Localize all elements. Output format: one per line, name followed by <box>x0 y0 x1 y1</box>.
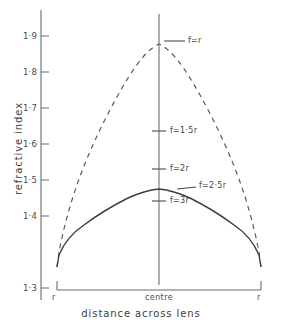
x-tick-label-left-r: r <box>52 293 56 302</box>
x-axis-title: distance across lens <box>0 308 282 319</box>
y-tick-label-1-3: 1·3 <box>13 283 37 293</box>
chart-figure: 1·9 1·8 1·7 1·6 1·5 1·4 1·3 f=r f=1·5r f… <box>0 0 282 331</box>
y-tick-label-1-9: 1·9 <box>13 31 37 41</box>
annotation-label-f-2r: f=2r <box>170 164 189 173</box>
annotation-label-f-1-5r: f=1·5r <box>170 126 197 135</box>
x-tick-label-right-r: r <box>257 293 261 302</box>
y-axis-ticks <box>41 36 49 288</box>
annotation-label-f-3r: f=3r <box>170 196 189 205</box>
y-axis-title: refractive index <box>13 84 24 214</box>
y-tick-label-1-8: 1·8 <box>13 67 37 77</box>
x-tick-label-centre: centre <box>138 293 180 302</box>
annotation-label-f-r: f=r <box>188 36 202 45</box>
leader-line-f-2-5r <box>177 187 196 189</box>
annotation-label-f-2-5r: f=2·5r <box>199 181 226 190</box>
chart-plot-area <box>0 0 282 331</box>
